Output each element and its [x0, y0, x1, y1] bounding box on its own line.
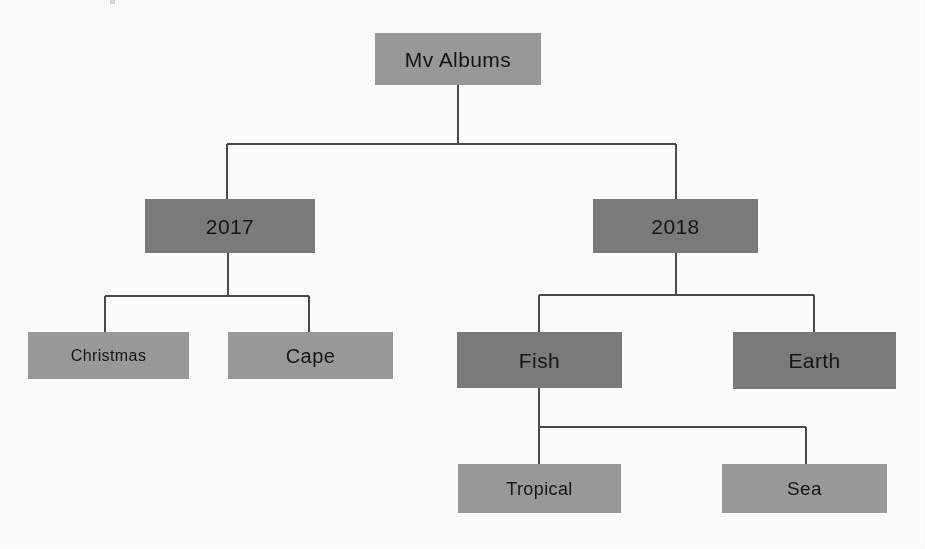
connector-y2018-children: [539, 253, 814, 332]
node-label-tropical: Tropical: [506, 480, 573, 498]
node-root[interactable]: Mv Albums: [375, 33, 541, 85]
node-y2018[interactable]: 2018: [593, 199, 758, 253]
diagram-canvas: Mv Albums20172018ChristmasCapeFishEarthT…: [0, 0, 925, 549]
connector-fish-children: [539, 388, 806, 464]
node-tropical[interactable]: Tropical: [458, 464, 621, 513]
node-sea[interactable]: Sea: [722, 464, 887, 513]
node-cape[interactable]: Cape: [228, 332, 393, 379]
node-label-fish: Fish: [519, 350, 560, 371]
node-christmas[interactable]: Christmas: [28, 332, 189, 379]
node-label-christmas: Christmas: [71, 348, 147, 364]
node-label-earth: Earth: [788, 350, 840, 371]
node-label-y2018: 2018: [651, 216, 699, 237]
connector-root-to-years: [227, 85, 676, 199]
node-earth[interactable]: Earth: [733, 332, 896, 389]
node-label-root: Mv Albums: [405, 49, 511, 70]
node-y2017[interactable]: 2017: [145, 199, 315, 253]
node-label-sea: Sea: [787, 479, 822, 498]
artifact-speck-top: [110, 0, 115, 4]
node-label-y2017: 2017: [206, 216, 254, 237]
connector-y2017-children: [105, 253, 309, 332]
node-label-cape: Cape: [286, 346, 335, 366]
node-fish[interactable]: Fish: [457, 332, 622, 388]
